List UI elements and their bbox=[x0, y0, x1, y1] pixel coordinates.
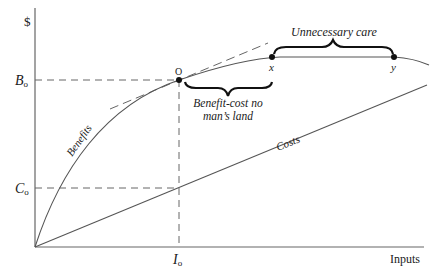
co-label-sub: o bbox=[24, 187, 29, 197]
benefits-curve bbox=[35, 57, 429, 247]
costs-line-label: Costs bbox=[274, 133, 301, 153]
point-y-marker bbox=[391, 54, 397, 60]
y-axis-label: $ bbox=[24, 14, 31, 29]
bo-label: Bo bbox=[15, 73, 29, 89]
bo-label-sub: o bbox=[24, 79, 29, 89]
x-axis-label: Inputs bbox=[390, 252, 420, 266]
io-label-sub: o bbox=[178, 258, 183, 268]
benefit-cost-diagram: $ Inputs Bo Co Io O x y Benefit-cost no … bbox=[0, 0, 444, 271]
point-x-label: x bbox=[268, 61, 274, 73]
point-o-marker bbox=[176, 77, 182, 83]
no-mans-land-label-line1: Benefit-cost no bbox=[193, 97, 263, 110]
diagram-canvas: $ Inputs Bo Co Io O x y Benefit-cost no … bbox=[0, 0, 444, 271]
io-label: Io bbox=[172, 252, 183, 268]
unnecessary-care-brace bbox=[274, 40, 393, 54]
point-y-label: y bbox=[390, 61, 396, 73]
no-mans-land-label-line2: man’s land bbox=[203, 110, 253, 122]
point-x-marker bbox=[269, 54, 275, 60]
no-mans-land-brace bbox=[185, 82, 272, 96]
unnecessary-care-label: Unnecessary care bbox=[291, 25, 378, 39]
point-o-label: O bbox=[175, 66, 182, 77]
co-label: Co bbox=[15, 181, 29, 197]
benefits-curve-label: Benefits bbox=[64, 122, 94, 158]
